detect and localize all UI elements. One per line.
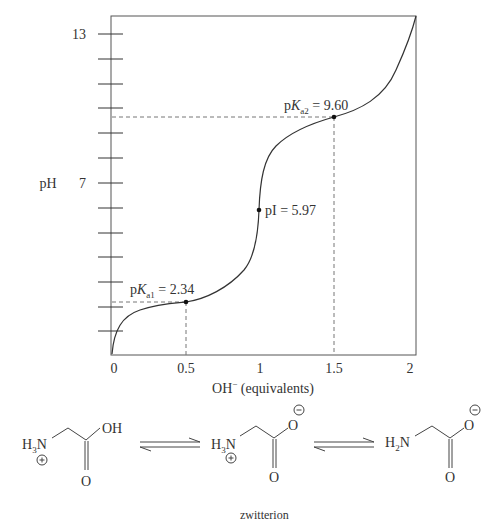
- pi-point: [257, 208, 262, 213]
- pi-label: pI = 5.97: [265, 203, 316, 218]
- svg-text:O: O: [81, 474, 91, 489]
- y-tick-7: 7: [79, 176, 86, 191]
- pka1-guides: [112, 302, 186, 355]
- pka2-label: pKa2 = 9.60: [284, 98, 348, 116]
- pka2-guides: [112, 117, 334, 355]
- pka2-point: [332, 115, 337, 120]
- svg-text:O: O: [269, 470, 279, 485]
- svg-text:O: O: [288, 418, 298, 433]
- y-tick-13: 13: [72, 27, 86, 42]
- plot-frame: [111, 16, 416, 355]
- species-cation: H3N OH O: [22, 421, 122, 489]
- x-tick-2: 2: [407, 361, 414, 376]
- species-zwitterion: H3N O O zwitterion: [211, 405, 304, 522]
- zwitterion-caption: zwitterion: [240, 508, 289, 522]
- titration-curve: [112, 16, 416, 354]
- svg-text:O: O: [464, 418, 474, 433]
- x-tick-0-5: 0.5: [177, 361, 195, 376]
- titration-chart: 13 7 pH 0 0.5 1 1.5 2 OH− (equivalents) …: [39, 16, 416, 397]
- equilibrium-arrow: [314, 438, 374, 451]
- equilibrium-arrow: [140, 438, 200, 451]
- pka1-point: [184, 300, 189, 305]
- svg-text:OH: OH: [102, 421, 122, 436]
- y-axis-label: pH: [39, 176, 56, 191]
- species-anion: H2N O O: [385, 405, 480, 485]
- figure: 13 7 pH 0 0.5 1 1.5 2 OH− (equivalents) …: [0, 0, 493, 529]
- pka1-label: pKa1 = 2.34: [130, 282, 194, 300]
- svg-text:H3N: H3N: [211, 437, 236, 455]
- x-tick-1: 1: [257, 361, 264, 376]
- svg-text:O: O: [445, 470, 455, 485]
- glycine-equilibria: H3N OH O H3N O O zwi: [22, 405, 480, 522]
- x-tick-0: 0: [111, 361, 118, 376]
- svg-text:H2N: H2N: [385, 435, 410, 453]
- x-axis-label: OH− (equivalents): [212, 379, 314, 397]
- svg-text:H3N: H3N: [22, 437, 47, 455]
- x-tick-1-5: 1.5: [325, 361, 343, 376]
